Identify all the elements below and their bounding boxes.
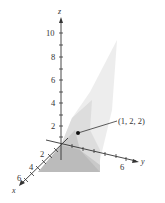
z-tick-label: 6 [51, 75, 55, 85]
y-axis-label: y [140, 157, 145, 166]
z-tick-label: 10 [46, 28, 55, 38]
x-tick-label: 2 [40, 149, 44, 159]
x-tick-label: 6 [17, 173, 21, 183]
point-label: (1, 2, 2) [118, 116, 145, 126]
z-tick-label: 2 [51, 121, 55, 131]
z-tick-label: 8 [51, 52, 55, 62]
x-axis-label: x [11, 186, 16, 195]
y-arrow-icon [132, 159, 139, 163]
z-axis-label: z [57, 7, 62, 16]
x-tick-label: 4 [29, 162, 34, 172]
point-marker [76, 131, 80, 135]
y-tick-label: 6 [120, 162, 124, 172]
z-arrow-icon [59, 17, 63, 23]
3d-plot: z x y 10 8 6 4 2 2 4 6 6 (1, 2, 2) [0, 0, 165, 203]
z-tick-label: 4 [51, 98, 56, 108]
